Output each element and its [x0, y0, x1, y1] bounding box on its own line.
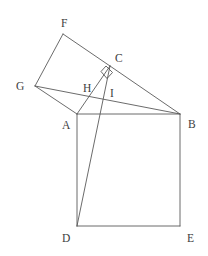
vertex-label-I: I — [110, 87, 114, 99]
geometry-figure: F C G H I A B D E — [0, 0, 208, 256]
vertex-label-F: F — [61, 17, 67, 29]
segment-G-F — [35, 34, 63, 86]
figure-canvas — [0, 0, 208, 256]
vertex-label-B: B — [188, 118, 196, 130]
vertex-label-G: G — [16, 80, 24, 92]
segment-F-C — [63, 34, 110, 66]
vertex-label-D: D — [62, 232, 70, 244]
vertex-label-E: E — [187, 232, 194, 244]
vertex-label-C: C — [115, 52, 123, 64]
vertex-label-A: A — [62, 119, 70, 131]
vertex-label-H: H — [83, 82, 91, 94]
